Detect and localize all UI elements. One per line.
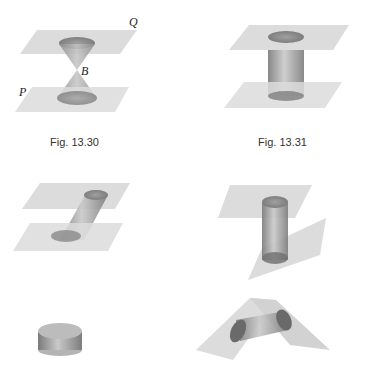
figure-canvas: Q B P — [0, 0, 367, 381]
cylinder-body — [262, 203, 288, 260]
truncated-cylinder-diagram — [218, 185, 326, 280]
oblique-cylinder-diagram — [13, 183, 130, 251]
cylinder-top-cap — [268, 31, 304, 43]
wedge-cylinder-diagram — [196, 298, 330, 360]
oblique-top-cap — [84, 190, 108, 200]
cone-upper — [59, 44, 95, 70]
short-cylinder-diagram — [38, 323, 82, 356]
fig-13-31-diagram — [224, 25, 349, 108]
caption-fig-13-30: Fig. 13.30 — [50, 136, 99, 148]
cone-bottom-cap — [57, 91, 97, 105]
label-p: P — [18, 85, 27, 99]
label-q: Q — [129, 15, 138, 29]
top-plane — [22, 183, 130, 209]
cylinder-top-cap — [262, 196, 288, 208]
cylinder-bottom-cap — [268, 91, 304, 101]
cylinder-cut-face — [262, 252, 288, 264]
oblique-bottom-cap — [51, 230, 81, 242]
caption-fig-13-31: Fig. 13.31 — [258, 136, 307, 148]
disc-top — [38, 323, 82, 339]
fig-13-30-diagram: Q B P — [15, 15, 138, 112]
label-b: B — [81, 64, 89, 78]
